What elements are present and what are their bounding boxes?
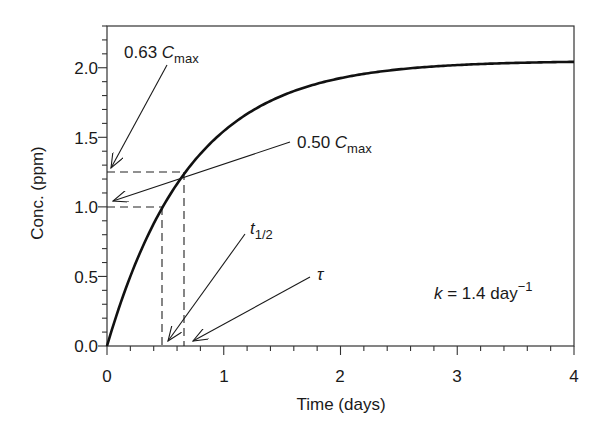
x-tick-label: 4: [569, 367, 578, 386]
label-t-half: t1/2: [250, 219, 273, 242]
y-tick-label: 2.0: [74, 59, 98, 78]
x-tick-label: 2: [335, 367, 344, 386]
label-rate-constant: k = 1.4 day−1: [434, 279, 532, 303]
arrow-063cmax: [111, 65, 167, 168]
label-063cmax: 0.63 Cmax: [124, 43, 199, 66]
x-tick-label: 0: [102, 367, 111, 386]
y-tick-labels: 0.0 0.5 1.0 1.5 2.0: [74, 59, 98, 356]
y-tick-label: 1.5: [74, 129, 98, 148]
y-tick-label: 0.0: [74, 337, 98, 356]
x-tick-labels: 0 1 2 3 4: [102, 367, 578, 386]
chart: 0.0 0.5 1.0 1.5 2.0 0 1 2 3 4 Time (days…: [0, 0, 596, 435]
x-axis-ticks: [107, 346, 574, 355]
x-axis-label: Time (days): [296, 395, 385, 414]
y-tick-label: 0.5: [74, 268, 98, 287]
label-tau: τ: [317, 265, 325, 284]
reference-lines: [107, 172, 184, 346]
arrow-t-half: [168, 234, 245, 341]
y-tick-label: 1.0: [74, 198, 98, 217]
arrow-tau: [193, 277, 310, 341]
annotation-arrows: [111, 65, 310, 341]
y-axis-label: Conc. (ppm): [28, 146, 47, 240]
label-050cmax: 0.50 Cmax: [297, 133, 372, 156]
x-tick-label: 1: [219, 367, 228, 386]
concentration-curve: [107, 62, 574, 346]
x-tick-label: 3: [452, 367, 461, 386]
y-axis-ticks: [98, 26, 107, 346]
